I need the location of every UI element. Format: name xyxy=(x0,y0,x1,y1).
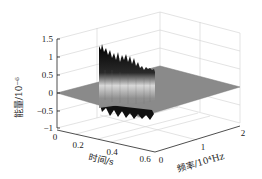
freq-tick-1: 1 xyxy=(201,142,206,152)
z-tick-1.5: 1.5 xyxy=(42,34,54,44)
z-ticks xyxy=(57,39,60,128)
freq-tick-0: 0 xyxy=(159,155,164,165)
z-tick-neg1: −1 xyxy=(43,123,53,133)
surface-peak xyxy=(99,44,155,108)
z-tick-0.5: 0.5 xyxy=(42,70,54,80)
time-tick-0.2: 0.2 xyxy=(72,140,83,150)
freq-axis-line xyxy=(155,126,240,152)
freq-axis-label: 频率/10⁴Hz xyxy=(176,150,226,174)
z-tick-labels: 1.5 1 0.5 0 −0.5 −1 xyxy=(37,34,54,133)
z-tick-1: 1 xyxy=(49,52,54,62)
time-tick-0: 0 xyxy=(53,132,58,142)
z-tick-0: 0 xyxy=(49,88,54,98)
surface-chart: 1.5 1 0.5 0 −0.5 −1 0 0.2 0.4 0.6 0 1 2 … xyxy=(0,0,262,179)
time-tick-0.6: 0.6 xyxy=(139,154,151,164)
z-axis-label: 能量/10⁻⁶ xyxy=(13,77,24,118)
freq-tick-2: 2 xyxy=(241,128,246,138)
z-tick-neg0.5: −0.5 xyxy=(37,106,54,116)
